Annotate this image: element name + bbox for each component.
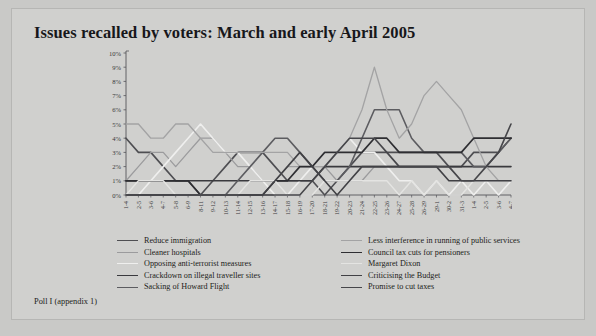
x-axis-tick-label: 16-19	[297, 201, 303, 215]
legend-column-left: Reduce immigrationCleaner hospitalsOppos…	[117, 235, 341, 293]
x-axis-tick-label: 2-5	[483, 201, 489, 209]
x-axis-tick-label: 3-6	[496, 201, 502, 209]
legend-item-label: Reduce immigration	[144, 235, 211, 247]
legend-item[interactable]: Cleaner hospitals	[117, 247, 341, 259]
x-axis-tick-label: 10-13	[223, 201, 229, 215]
legend-item[interactable]: Council tax cuts for pensioners	[341, 247, 587, 259]
x-axis-tick-label: 6-9	[185, 201, 191, 209]
x-axis-tick-label: 17-20	[309, 201, 315, 215]
legend-color-swatch	[117, 240, 138, 241]
figure-card: Issues recalled by voters: March and ear…	[11, 8, 585, 320]
x-axis-tick-label: 4-7	[508, 201, 512, 209]
x-axis-tick-label: 14-17	[272, 201, 278, 215]
legend-item[interactable]: Margaret Dixon	[341, 258, 587, 270]
x-axis-tick-label: 29-1	[434, 201, 440, 212]
x-axis-tick-label: 26-29	[421, 201, 427, 215]
legend-item[interactable]: Reduce immigration	[117, 235, 341, 247]
x-axis-tick-label: 3-6	[148, 201, 154, 209]
data-series-lines	[126, 67, 511, 195]
legend-item-label: Margaret Dixon	[368, 258, 420, 270]
x-axis-tick-label: 1-4	[123, 201, 129, 209]
x-axis-tick-label: 23-26	[384, 201, 390, 215]
x-axis-tick-labels: 1-42-53-64-75-86-98-119-1210-1311-1412-1…	[123, 201, 512, 215]
x-axis-tick-label: 2-5	[136, 201, 142, 209]
y-axis-tick-label: 3%	[112, 149, 121, 156]
x-axis-tick-label: 19-22	[334, 201, 340, 215]
y-axis-tick-label: 1%	[112, 177, 121, 184]
x-axis-tick-label: 15-18	[285, 201, 291, 215]
y-axis-tick-label: 9%	[112, 64, 121, 71]
legend-column-right: Less interference in running of public s…	[341, 235, 587, 293]
x-axis-tick-label: 30-2	[446, 201, 452, 212]
legend-item-label: Criticising the Budget	[368, 270, 440, 282]
y-axis-tick-label: 5%	[112, 121, 121, 128]
chart-svg: 0%1%2%3%4%5%6%7%8%9%10% 1-42-53-64-75-86…	[92, 47, 512, 232]
legend-color-swatch	[341, 275, 362, 276]
x-axis-tick-label: 5-8	[173, 201, 179, 209]
x-axis-tick-label: 1-4	[471, 201, 477, 209]
y-axis-tick-label: 4%	[112, 135, 121, 142]
legend-item[interactable]: Sacking of Howard Flight	[117, 281, 341, 293]
legend-item[interactable]: Opposing anti-terrorist measures	[117, 258, 341, 270]
x-axis-tick-label: 8-11	[198, 201, 204, 212]
legend-item-label: Crackdown on illegal traveller sites	[144, 270, 260, 282]
x-axis-group: 1-42-53-64-75-86-98-119-1210-1311-1412-1…	[123, 195, 512, 215]
series-line	[126, 181, 511, 195]
x-axis-tick-label: 13-16	[260, 201, 266, 215]
y-axis-tick-label: 7%	[112, 92, 121, 99]
legend-item-label: Less interference in running of public s…	[368, 235, 520, 247]
x-axis-tick-label: 22-25	[372, 201, 378, 215]
legend-color-swatch	[341, 263, 362, 264]
y-axis-tick-label: 8%	[112, 78, 121, 85]
x-axis-tick-label: 24-27	[396, 201, 402, 215]
legend-color-swatch	[117, 263, 138, 264]
legend-item[interactable]: Crackdown on illegal traveller sites	[117, 270, 341, 282]
legend-item[interactable]: Criticising the Budget	[341, 270, 587, 282]
legend-item[interactable]: Less interference in running of public s…	[341, 235, 587, 247]
legend-item[interactable]: Promise to cut taxes	[341, 281, 587, 293]
legend-item-label: Promise to cut taxes	[368, 281, 434, 293]
legend-item-label: Sacking of Howard Flight	[144, 281, 229, 293]
legend-color-swatch	[117, 275, 138, 276]
page-title: Issues recalled by voters: March and ear…	[34, 23, 415, 43]
x-axis-tick-label: 11-14	[235, 201, 241, 215]
x-axis-tick-label: 9-12	[210, 201, 216, 212]
x-axis-tick-label: 18-21	[322, 201, 328, 215]
x-axis-tick-label: 25-28	[409, 201, 415, 215]
chart-legend: Reduce immigrationCleaner hospitalsOppos…	[117, 235, 587, 293]
line-chart: 0%1%2%3%4%5%6%7%8%9%10% 1-42-53-64-75-86…	[92, 47, 512, 232]
legend-item-label: Cleaner hospitals	[144, 247, 201, 259]
y-axis-tick-label: 2%	[112, 163, 121, 170]
x-axis-tick-label: 21-24	[359, 201, 365, 215]
legend-color-swatch	[341, 252, 362, 253]
x-axis-tick-label: 20-23	[347, 201, 353, 215]
legend-item-label: Opposing anti-terrorist measures	[144, 258, 251, 270]
series-line	[126, 67, 511, 181]
legend-item-label: Council tax cuts for pensioners	[368, 247, 470, 259]
x-axis-tick-label: 31-3	[459, 201, 465, 212]
legend-color-swatch	[117, 252, 138, 253]
figure-page: Issues recalled by voters: March and ear…	[0, 0, 596, 336]
figure-caption: Poll I (appendix 1)	[34, 297, 97, 306]
x-axis-tick-label: 12-15	[247, 201, 253, 215]
legend-color-swatch	[117, 287, 138, 288]
y-axis-tick-label: 0%	[112, 192, 121, 199]
legend-color-swatch	[341, 287, 362, 288]
legend-color-swatch	[341, 240, 362, 241]
y-axis-tick-label: 10%	[109, 50, 122, 57]
y-axis-tick-labels: 0%1%2%3%4%5%6%7%8%9%10%	[109, 50, 122, 199]
x-axis-tick-label: 4-7	[160, 201, 166, 209]
y-axis-tick-label: 6%	[112, 106, 121, 113]
